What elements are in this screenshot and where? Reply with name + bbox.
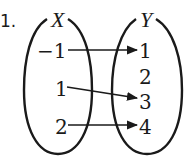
- y-element-1: 1: [139, 39, 152, 63]
- arrow-1-to-3: [67, 87, 137, 98]
- x-element-neg1: −1: [37, 39, 66, 63]
- y-element-4: 4: [139, 115, 152, 139]
- set-x-label: X: [50, 7, 66, 32]
- x-element-2: 2: [55, 115, 68, 139]
- mapping-diagram: 1. X Y −1 1 2 1 2 3 4: [0, 0, 191, 166]
- problem-label: 1.: [0, 11, 16, 31]
- x-element-1: 1: [55, 77, 68, 101]
- y-element-2: 2: [139, 65, 152, 89]
- y-element-3: 3: [139, 90, 152, 114]
- set-y-label: Y: [140, 7, 155, 32]
